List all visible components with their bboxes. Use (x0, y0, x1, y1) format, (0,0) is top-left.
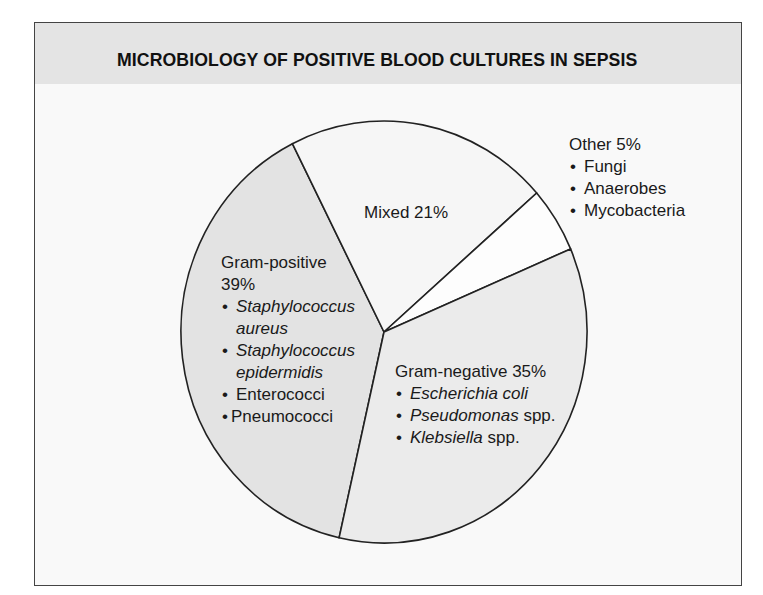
pie-chart (0, 0, 763, 595)
organism-item: aureus (221, 318, 355, 340)
organism-item: Staphylococcus (221, 296, 355, 318)
gram-positive-pct: 39% (221, 274, 355, 296)
mixed-name: Mixed 21% (364, 202, 448, 224)
organism-item: Enterococci (221, 384, 355, 406)
gram-negative-organisms: Escherichia coliPseudomonas spp.Klebsiel… (395, 383, 556, 449)
organism-item: Anaerobes (569, 178, 685, 200)
gram-negative-name: Gram-negative 35% (395, 361, 556, 383)
organism-item: Pseudomonas spp. (395, 405, 556, 427)
organism-item: epidermidis (221, 362, 355, 384)
organism-item: Staphylococcus (221, 340, 355, 362)
other-name: Other 5% (569, 134, 685, 156)
other-organisms: FungiAnaerobesMycobacteria (569, 156, 685, 222)
label-gram-negative: Gram-negative 35% Escherichia coliPseudo… (395, 361, 556, 449)
organism-item: Pneumococci (221, 406, 355, 428)
organism-item: Escherichia coli (395, 383, 556, 405)
organism-item: Fungi (569, 156, 685, 178)
gram-positive-organisms: StaphylococcusaureusStaphylococcusepider… (221, 296, 355, 428)
organism-item: Klebsiella spp. (395, 427, 556, 449)
label-other: Other 5% FungiAnaerobesMycobacteria (569, 134, 685, 222)
label-gram-positive: Gram-positive 39% StaphylococcusaureusSt… (221, 252, 355, 428)
label-mixed: Mixed 21% (364, 202, 448, 224)
gram-positive-name: Gram-positive (221, 252, 355, 274)
organism-item: Mycobacteria (569, 200, 685, 222)
